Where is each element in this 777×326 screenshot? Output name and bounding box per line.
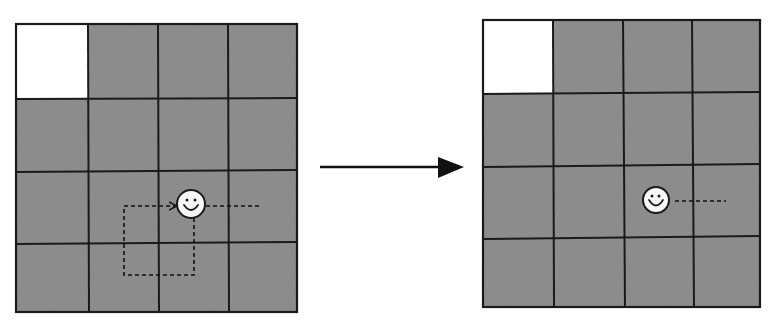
- left-grid-vline-3: [228, 24, 229, 312]
- left-grid: [16, 24, 297, 312]
- transition-arrow-icon: [320, 157, 464, 178]
- left-grid-vline-1: [88, 24, 89, 312]
- right-grid-vline-1: [553, 20, 554, 307]
- left-agent-smiley-icon: [177, 190, 205, 218]
- left-grid-goal-cell: [16, 24, 88, 99]
- right-grid: [483, 20, 760, 307]
- right-grid-goal-cell: [483, 20, 553, 93]
- right-agent-smiley-icon: [643, 187, 669, 213]
- left-grid-vline-2: [158, 24, 159, 312]
- grid-world-transition-diagram: [0, 0, 777, 326]
- left-grid-hline-1: [16, 98, 297, 99]
